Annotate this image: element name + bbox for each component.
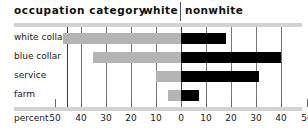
legend-label-white: white <box>143 4 178 16</box>
axis-tick <box>307 99 308 107</box>
category-label: white collar <box>14 32 66 42</box>
axis-tick <box>206 99 207 107</box>
bar-nonwhite <box>181 71 259 82</box>
axis-tick <box>256 99 257 107</box>
bilateral-bar-chart: occupation category white nonwhite perce… <box>0 0 308 136</box>
axis-tick-label: 10 <box>196 113 216 123</box>
bar-white <box>156 71 181 82</box>
rule-top <box>14 23 302 27</box>
header-divider <box>180 2 181 21</box>
axis-tick-label: 0 <box>171 113 191 123</box>
category-label: blue collar <box>14 51 61 61</box>
axis-tick-label: 40 <box>271 113 291 123</box>
category-label: service <box>14 70 46 80</box>
axis-tick <box>156 99 157 107</box>
bar-white <box>93 52 181 63</box>
chart-header: occupation category white nonwhite <box>0 0 308 24</box>
rule-bottom <box>14 107 302 111</box>
axis-percent-label: percent <box>14 113 48 123</box>
bar-nonwhite <box>181 52 281 63</box>
bar-nonwhite <box>181 33 226 44</box>
axis-tick-label: 40 <box>71 113 91 123</box>
axis-tick-label: 50 <box>45 113 65 123</box>
axis-tick <box>81 99 82 107</box>
gridline <box>256 27 257 107</box>
category-label: farm <box>14 89 35 99</box>
legend-label-nonwhite: nonwhite <box>185 4 243 16</box>
gridline <box>281 27 282 107</box>
axis-tick-label: 50 <box>297 113 308 123</box>
page-title: occupation category <box>14 4 146 16</box>
gridline <box>231 27 232 107</box>
axis-tick <box>231 99 232 107</box>
axis-tick-label: 30 <box>96 113 116 123</box>
axis-tick <box>106 99 107 107</box>
axis-tick-label: 20 <box>121 113 141 123</box>
axis-tick <box>281 99 282 107</box>
bar-nonwhite <box>181 90 199 101</box>
axis-tick <box>55 99 56 107</box>
axis-tick-label: 20 <box>221 113 241 123</box>
axis-tick-label: 10 <box>146 113 166 123</box>
bar-white <box>168 90 181 101</box>
bar-white <box>63 33 181 44</box>
axis-tick-label: 30 <box>246 113 266 123</box>
axis-tick <box>131 99 132 107</box>
